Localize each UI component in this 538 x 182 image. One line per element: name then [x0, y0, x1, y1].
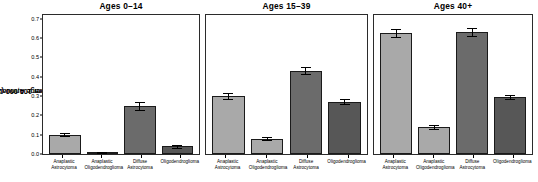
chart-panel-1: Ages 0–14AnaplasticAstrocytomaAnaplastic… — [42, 11, 200, 182]
plot-area — [42, 14, 200, 155]
x-axis-tick-label-line1: Oligodendroglioma — [161, 159, 200, 164]
plot-area — [373, 14, 533, 155]
x-axis-tick-label-line2: Astrocytoma — [47, 165, 82, 171]
plot-area — [205, 14, 368, 155]
bar-slot — [212, 15, 245, 154]
bar-group — [43, 15, 199, 154]
x-axis-tick-label-line1: Oligodendroglioma — [327, 159, 366, 164]
error-bar-cap-top — [505, 95, 515, 96]
y-axis: 0.00.10.20.30.40.50.60.7 — [24, 0, 42, 182]
error-bar-cap-bottom — [505, 99, 515, 100]
error-bar-cap-bottom — [223, 99, 233, 100]
x-axis-tick-row — [42, 155, 200, 158]
x-axis-tick-mark — [180, 155, 181, 158]
error-bar-cap-top — [262, 137, 272, 138]
error-bar-cap-bottom — [340, 104, 350, 105]
x-axis-tick-mark — [433, 155, 434, 158]
error-bar-cap-bottom — [172, 148, 182, 149]
x-axis-tick-label-line1: Diffuse — [465, 159, 479, 164]
x-axis-tick-mark — [101, 155, 102, 158]
error-bar-cap-top — [135, 102, 145, 103]
x-axis-tick-mark — [307, 155, 308, 158]
y-axis-tick-label: 0.6 — [31, 35, 39, 41]
error-bar-cap-top — [429, 125, 439, 126]
error-bar-cap-top — [223, 93, 233, 94]
bar-slot — [494, 15, 526, 154]
error-bar-cap-top — [60, 133, 70, 134]
error-bar-line — [396, 29, 397, 37]
x-axis-tick-mark — [348, 155, 349, 158]
bar[interactable] — [494, 97, 526, 154]
y-axis-title: Average Annual Age Adjusted Incidence pe… — [0, 0, 26, 182]
bar[interactable] — [290, 71, 323, 154]
bar-group — [374, 15, 532, 154]
x-axis-tick-label: Oligodendroglioma — [493, 159, 528, 170]
x-axis-tick-label-line1: Anaplastic — [53, 159, 74, 164]
error-bar-cap-bottom — [301, 74, 311, 75]
bar-slot — [49, 15, 81, 154]
x-axis-tick-row — [373, 155, 533, 158]
error-bar-cap-bottom — [135, 110, 145, 111]
bar-slot — [380, 15, 412, 154]
y-axis-tick-label: 0.2 — [31, 112, 39, 118]
x-axis-tick-label: AnaplasticOligodendroglioma — [416, 159, 451, 170]
x-axis-tick-label: AnaplasticOligodendroglioma — [85, 159, 120, 170]
x-axis-labels: AnaplasticAstrocytomaAnaplasticOligodend… — [42, 159, 200, 170]
error-bar-cap-bottom — [262, 140, 272, 141]
incidence-bar-chart-figure: Average Annual Age Adjusted Incidence pe… — [0, 0, 538, 182]
bar[interactable] — [49, 135, 81, 154]
bar-group — [206, 15, 367, 154]
x-axis-tick-label-line1: Anaplastic — [423, 159, 444, 164]
error-bar-line — [139, 102, 140, 110]
x-axis-tick-label-line2: Astrocytoma — [210, 165, 246, 171]
chart-panel-3: Ages 40+AnaplasticAstrocytomaAnaplasticO… — [373, 11, 533, 182]
error-bar-cap-top — [391, 29, 401, 30]
y-axis-tick-label: 0.0 — [31, 151, 39, 157]
panel-title: Ages 0–14 — [42, 1, 200, 11]
x-axis-tick-label-line2: Astrocytoma — [378, 165, 413, 171]
panel-title: Ages 15–39 — [205, 1, 368, 11]
error-bar-cap-bottom — [429, 129, 439, 130]
bar-slot — [290, 15, 323, 154]
chart-panel-2: Ages 15–39AnaplasticAstrocytomaAnaplasti… — [205, 11, 368, 182]
bar-slot — [328, 15, 361, 154]
error-bar-cap-top — [340, 99, 350, 100]
x-axis-tick-label-line2: Astrocytoma — [288, 165, 324, 171]
x-axis-tick-mark — [266, 155, 267, 158]
x-axis-tick-mark — [393, 155, 394, 158]
bar[interactable] — [212, 96, 245, 154]
bar-slot — [456, 15, 488, 154]
error-bar-cap-bottom — [60, 136, 70, 137]
x-axis-tick-label-line2: Oligodendroglioma — [85, 165, 120, 171]
x-axis-tick-label: DiffuseAstrocytoma — [288, 159, 324, 170]
x-axis-tick-mark — [513, 155, 514, 158]
x-axis-tick-label: AnaplasticAstrocytoma — [210, 159, 246, 170]
y-axis-tick-label: 0.1 — [31, 132, 39, 138]
x-axis-labels: AnaplasticAstrocytomaAnaplasticOligodend… — [205, 159, 368, 170]
x-axis-tick-label-line1: Diffuse — [133, 159, 147, 164]
x-axis-tick-label-line2: Astrocytoma — [123, 165, 158, 171]
bar[interactable] — [380, 33, 412, 154]
x-axis-labels: AnaplasticAstrocytomaAnaplasticOligodend… — [373, 159, 533, 170]
bar[interactable] — [418, 127, 450, 154]
bar[interactable] — [124, 106, 156, 154]
bar[interactable] — [328, 102, 361, 154]
error-bar-cap-top — [172, 145, 182, 146]
x-axis-tick-label: AnaplasticAstrocytoma — [47, 159, 82, 170]
y-axis-tick-label: 0.4 — [31, 74, 39, 80]
x-axis-tick-label-line1: Anaplastic — [91, 159, 112, 164]
x-axis-tick-mark — [62, 155, 63, 158]
bar-slot — [162, 15, 194, 154]
bar[interactable] — [456, 32, 488, 154]
x-axis-tick-label: Oligodendroglioma — [327, 159, 363, 170]
x-axis-tick-label-line1: Oligodendroglioma — [493, 159, 532, 164]
x-axis-tick-label-line1: Diffuse — [299, 159, 313, 164]
error-bar-line — [305, 67, 306, 75]
error-bar-cap-top — [467, 28, 477, 29]
y-axis-tick-label: 0.5 — [31, 54, 39, 60]
bar-slot — [251, 15, 284, 154]
error-bar-cap-top — [301, 67, 311, 68]
x-axis-tick-mark — [225, 155, 226, 158]
error-bar-cap-bottom — [391, 37, 401, 38]
x-axis-tick-label-line1: Anaplastic — [256, 159, 277, 164]
